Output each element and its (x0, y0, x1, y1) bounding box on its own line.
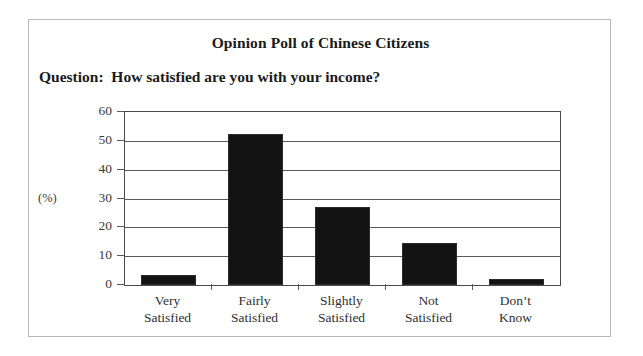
x-axis-category-label: Don’tKnow (472, 292, 559, 326)
y-axis-tick-label: 30 (78, 190, 112, 206)
bar (228, 134, 283, 285)
x-axis-category-label: NotSatisfied (385, 292, 472, 326)
y-axis-tick-mark (117, 169, 124, 170)
chart-card: Opinion Poll of Chinese Citizens Questio… (28, 19, 611, 337)
poll-question: Question: How satisfied are you with you… (39, 68, 380, 86)
x-axis-tick-mark (298, 284, 299, 290)
x-axis-category-line: Satisfied (124, 309, 211, 326)
y-axis-tick-label: 40 (78, 161, 112, 177)
x-axis-category-line: Very (124, 292, 211, 309)
y-axis-tick-mark (117, 284, 124, 285)
y-axis-tick-label: 10 (78, 247, 112, 263)
bar (141, 275, 196, 285)
x-axis-category-label: SlightlySatisfied (298, 292, 385, 326)
bar (402, 243, 457, 285)
y-axis-tick-mark (117, 111, 124, 112)
x-axis-category-label: VerySatisfied (124, 292, 211, 326)
bar (489, 279, 544, 285)
x-axis-category-line: Satisfied (298, 309, 385, 326)
x-axis-category-line: Know (472, 309, 559, 326)
y-axis-tick-mark (117, 140, 124, 141)
x-axis-category-line: Fairly (211, 292, 298, 309)
y-axis-unit-label: (%) (38, 190, 57, 205)
gridline-40 (125, 170, 560, 171)
plot-area (124, 111, 561, 286)
chart-screenshot: Opinion Poll of Chinese Citizens Questio… (0, 0, 643, 356)
x-axis-tick-mark (385, 284, 386, 290)
y-axis-tick-mark (117, 255, 124, 256)
y-axis-tick-label: 0 (78, 276, 112, 292)
gridline-30 (125, 199, 560, 200)
x-axis-category-line: Satisfied (211, 309, 298, 326)
x-axis-category-line: Don’t (472, 292, 559, 309)
x-axis-category-line: Slightly (298, 292, 385, 309)
x-axis-category-label: FairlySatisfied (211, 292, 298, 326)
y-axis-tick-label: 20 (78, 218, 112, 234)
bar (315, 207, 370, 285)
x-axis-category-line: Satisfied (385, 309, 472, 326)
y-axis-tick-label: 50 (78, 132, 112, 148)
x-axis-category-line: Not (385, 292, 472, 309)
x-axis-tick-mark (211, 284, 212, 290)
y-axis-tick-mark (117, 226, 124, 227)
y-axis-tick-label: 60 (78, 103, 112, 119)
y-axis-tick-mark (117, 198, 124, 199)
x-axis-tick-mark (472, 284, 473, 290)
gridline-50 (125, 141, 560, 142)
page-title: Opinion Poll of Chinese Citizens (29, 34, 612, 52)
